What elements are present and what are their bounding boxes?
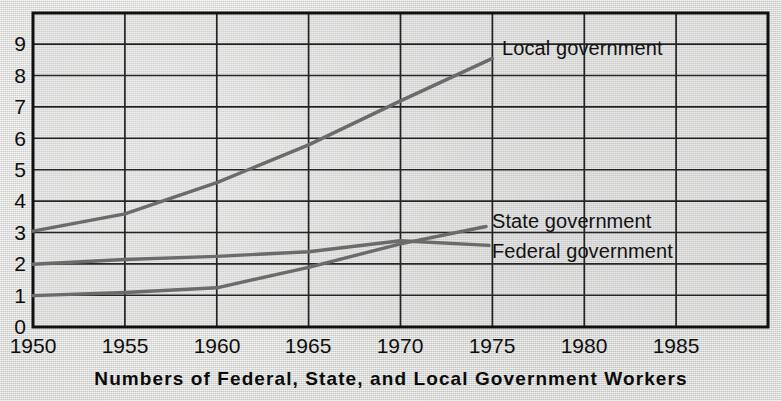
x-tick-label-1955: 1955 — [90, 335, 160, 356]
x-tick-label-1960: 1960 — [182, 335, 252, 356]
x-tick-label-1950: 1950 — [0, 335, 68, 356]
y-tick-label-2: 2 — [0, 253, 26, 274]
y-tick-label-9: 9 — [0, 33, 26, 54]
y-tick-label-5: 5 — [0, 159, 26, 180]
y-tick-label-3: 3 — [0, 222, 26, 243]
y-tick-label-7: 7 — [0, 96, 26, 117]
y-tick-label-4: 4 — [0, 190, 26, 211]
x-tick-label-1975: 1975 — [457, 335, 527, 356]
y-tick-label-6: 6 — [0, 128, 26, 149]
series-label-federal-government: Federal government — [492, 241, 673, 261]
chart-title: Numbers of Federal, State, and Local Gov… — [0, 368, 782, 390]
x-tick-label-1985: 1985 — [641, 335, 711, 356]
series-label-state-government: State government — [492, 211, 651, 231]
y-tick-label-8: 8 — [0, 65, 26, 86]
x-tick-label-1970: 1970 — [365, 335, 435, 356]
y-tick-label-1: 1 — [0, 285, 26, 306]
chart-figure: 9 8 7 6 5 4 3 2 1 0 1950 1955 1960 1965 … — [0, 0, 782, 401]
series-label-local-government: Local government — [502, 38, 663, 58]
x-tick-label-1965: 1965 — [273, 335, 343, 356]
x-tick-label-1980: 1980 — [549, 335, 619, 356]
